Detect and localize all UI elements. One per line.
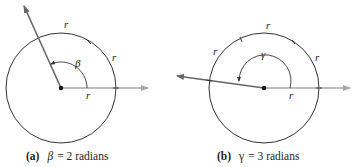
radius-label-r: r — [289, 89, 294, 101]
angle-label-gamma: γ — [261, 48, 266, 60]
caption-b: (b) γ = 3 radians — [217, 146, 300, 163]
angle-label-beta: β — [74, 57, 81, 69]
center-point-a — [59, 86, 63, 90]
center-point-b — [262, 86, 266, 90]
arc-label-r: r — [213, 45, 218, 57]
figure-b: r r r r γ (b) γ = 3 radians — [177, 19, 350, 163]
arc-label-r: r — [315, 51, 320, 63]
arc-label-r: r — [266, 19, 271, 31]
arc-label-r: r — [64, 18, 69, 30]
radius-label-r: r — [86, 89, 91, 101]
terminal-ray-b — [177, 76, 264, 88]
terminal-ray-a — [24, 6, 61, 88]
angle-arc-beta — [51, 62, 87, 88]
arc-label-r: r — [112, 51, 117, 63]
radian-diagram: r r r β (a) β = 2 radians r r r r γ (b) — [0, 0, 355, 167]
figure-a: r r r β (a) β = 2 radians — [6, 6, 148, 163]
caption-a: (a) β = 2 radians — [26, 146, 109, 163]
